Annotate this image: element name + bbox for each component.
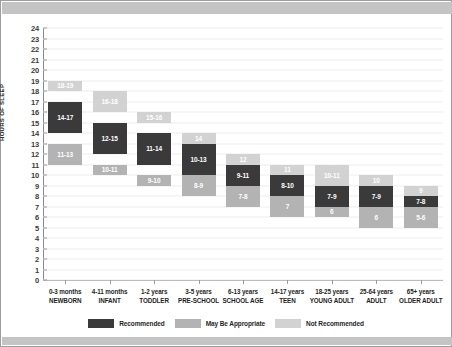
y-tick-label: 9 [35, 181, 43, 190]
category-age-range: 65+ years [399, 287, 443, 296]
x-tick-mark [243, 280, 244, 284]
y-tick-label: 18 [31, 87, 43, 96]
segment-not-recommended-upper: 11 [270, 165, 304, 176]
bar-column: 16-1812-1510-11 [87, 28, 131, 280]
category-age-range: 25-64 years [354, 287, 398, 296]
bar-column: 97-85-6 [399, 28, 443, 280]
y-tick-label: 0 [35, 276, 43, 285]
segment-recommended: 8-10 [270, 175, 304, 196]
x-tick-mark [376, 280, 377, 284]
legend-label: May Be Appropriate [206, 320, 265, 327]
y-tick-label: 14 [31, 129, 43, 138]
category-group-name: SCHOOL AGE [221, 296, 265, 305]
y-tick-label: 6 [35, 213, 43, 222]
segment-not-recommended-upper: 18-19 [48, 81, 82, 92]
segment-not-recommended-upper: 16-18 [93, 91, 127, 112]
y-tick-label: 12 [31, 150, 43, 159]
y-tick-label: 13 [31, 139, 43, 148]
segment-may-be-appropriate-lower: 6 [315, 207, 349, 218]
y-tick-label: 23 [31, 34, 43, 43]
category-age-range: 0-3 months [43, 287, 87, 296]
segment-recommended: 7-8 [404, 196, 438, 207]
y-tick-label: 8 [35, 192, 43, 201]
x-axis-category-label: 3-5 yearsPRE-SCHOOL [176, 287, 220, 305]
bar-column: 129-117-8 [221, 28, 265, 280]
bar-column: 18-1914-1711-13 [43, 28, 87, 280]
y-tick-label: 22 [31, 45, 43, 54]
segment-may-be-appropriate-lower: 7 [270, 196, 304, 217]
segment-recommended: 10-13 [182, 144, 216, 176]
segment-may-be-appropriate-lower: 6 [359, 207, 393, 228]
x-tick-mark [332, 280, 333, 284]
segment-not-recommended-upper: 15-16 [137, 112, 171, 123]
segment-recommended: 9-11 [226, 165, 260, 186]
legend-label: Recommended [119, 320, 165, 327]
y-tick-label: 4 [35, 234, 43, 243]
category-age-range: 4-11 months [87, 287, 131, 296]
segment-recommended: 7-9 [315, 186, 349, 207]
x-axis-category-label: 25-64 yearsADULT [354, 287, 398, 305]
y-tick-label: 19 [31, 76, 43, 85]
x-axis-category-label: 0-3 monthsNEWBORN [43, 287, 87, 305]
legend-swatch-recommended [88, 319, 114, 328]
x-axis-category-label: 18-25 yearsYOUNG ADULT [310, 287, 354, 305]
segment-recommended: 12-15 [93, 123, 127, 155]
category-group-name: PRE-SCHOOL [176, 296, 220, 305]
segment-not-recommended-upper: 14 [182, 133, 216, 144]
x-tick-mark [65, 280, 66, 284]
y-tick-label: 15 [31, 118, 43, 127]
segment-recommended: 7-9 [359, 186, 393, 207]
legend-label: Not Recommended [306, 320, 364, 327]
bar-column: 1410-138-9 [176, 28, 220, 280]
legend-swatch-may-be-appropriate [175, 319, 201, 328]
category-group-name: YOUNG ADULT [310, 296, 354, 305]
bottom-decoration-band [2, 337, 452, 345]
segment-not-recommended-upper: 10 [359, 175, 393, 186]
legend-item-recommended: Recommended [88, 319, 165, 328]
segment-may-be-appropriate-lower: 7-8 [226, 186, 260, 207]
top-decoration-band [2, 2, 452, 14]
segment-recommended: 11-14 [137, 133, 171, 165]
y-tick-label: 7 [35, 202, 43, 211]
category-age-range: 14-17 years [265, 287, 309, 296]
plot-area: 2423222120191817161514131211109876543210… [43, 28, 443, 280]
bar-column: 118-107 [265, 28, 309, 280]
segment-may-be-appropriate-lower: 9-10 [137, 175, 171, 186]
x-axis-category-label: 65+ yearsOLDER ADULT [399, 287, 443, 305]
legend-item-not-recommended: Not Recommended [275, 319, 364, 328]
category-group-name: TODDLER [132, 296, 176, 305]
bar-column: 15-1611-149-10 [132, 28, 176, 280]
category-age-range: 18-25 years [310, 287, 354, 296]
x-axis-category-label: 4-11 monthsINFANT [87, 287, 131, 305]
x-axis-category-label: 14-17 yearsTEEN [265, 287, 309, 305]
segment-may-be-appropriate-lower: 11-13 [48, 144, 82, 165]
y-tick-label: 5 [35, 223, 43, 232]
x-tick-mark [287, 280, 288, 284]
y-tick-label: 2 [35, 255, 43, 264]
category-age-range: 3-5 years [176, 287, 220, 296]
y-tick-label: 11 [31, 160, 43, 169]
segment-recommended: 14-17 [48, 102, 82, 134]
y-tick-label: 20 [31, 66, 43, 75]
bar-column: 10-117-96 [310, 28, 354, 280]
y-tick-label: 3 [35, 244, 43, 253]
segment-may-be-appropriate-lower: 10-11 [93, 165, 127, 176]
segment-not-recommended-upper: 9 [404, 186, 438, 197]
y-axis-title: HOURS OF SLEEP [0, 84, 5, 141]
y-tick-label: 24 [31, 24, 43, 33]
category-group-name: OLDER ADULT [399, 296, 443, 305]
category-age-range: 6-13 years [221, 287, 265, 296]
category-group-name: INFANT [87, 296, 131, 305]
category-age-range: 1-2 years [132, 287, 176, 296]
x-tick-mark [199, 280, 200, 284]
y-tick-label: 1 [35, 265, 43, 274]
y-tick-label: 10 [31, 171, 43, 180]
bar-column: 107-96 [354, 28, 398, 280]
segment-may-be-appropriate-lower: 5-6 [404, 207, 438, 228]
segment-not-recommended-upper: 12 [226, 154, 260, 165]
y-tick-label: 21 [31, 55, 43, 64]
x-axis-category-label: 1-2 yearsTODDLER [132, 287, 176, 305]
legend-item-may-be-appropriate: May Be Appropriate [175, 319, 265, 328]
chart-frame: HOURS OF SLEEP 2423222120191817161514131… [0, 0, 452, 347]
legend-swatch-not-recommended [275, 319, 301, 328]
